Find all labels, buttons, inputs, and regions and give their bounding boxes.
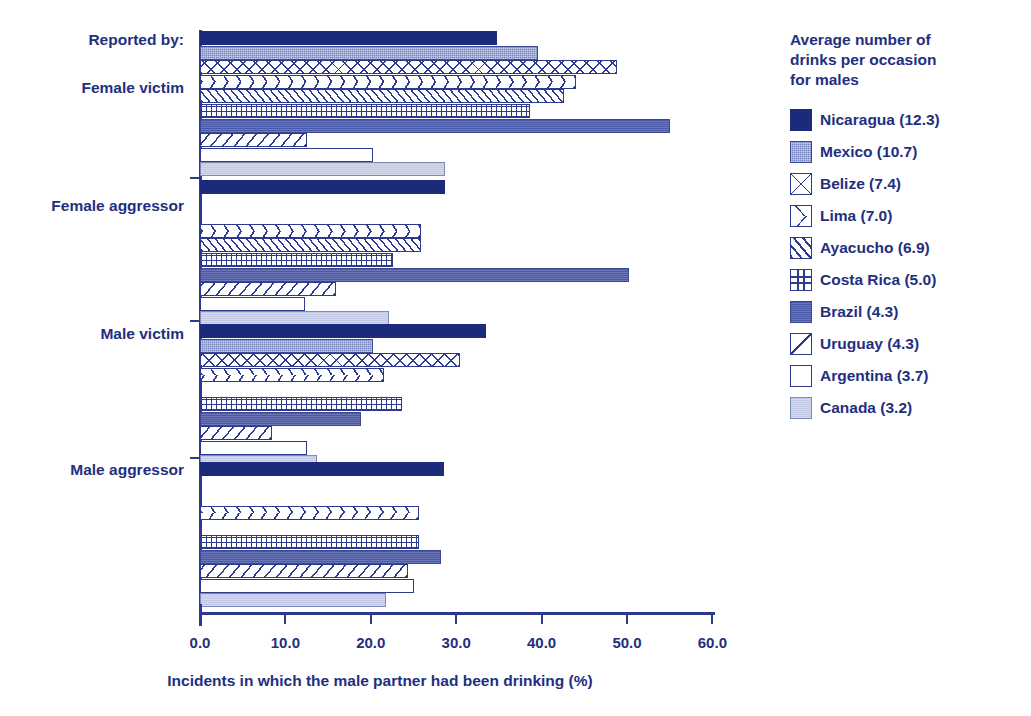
legend-rows: Nicaragua (12.3)Mexico (10.7)Belize (7.4…: [790, 104, 1025, 424]
legend-swatch-icon-diag-right: [790, 333, 812, 355]
legend-title: Average number of drinks per occasion fo…: [790, 30, 1025, 90]
legend-swatch-icon-dots-mid: [790, 141, 812, 163]
bar-lima-male-aggressor: [200, 506, 419, 520]
legend-label: Canada (3.2): [820, 399, 912, 417]
bar-mexico-male-victim: [200, 339, 373, 353]
category-label-male-victim: Male victim: [24, 324, 184, 344]
x-tick-50.0: [626, 613, 628, 624]
bar-belize-female-victim: [200, 60, 617, 74]
chart-plot-area: Reported by: Female victim Female aggres…: [0, 0, 760, 716]
x-tick-label-10.0: 10.0: [255, 634, 315, 651]
x-tick-60.0: [711, 613, 713, 624]
legend-label: Ayacucho (6.9): [820, 239, 930, 257]
category-label-male-aggressor: Male aggressor: [24, 461, 184, 480]
legend-item-argentina: Argentina (3.7): [790, 360, 1025, 392]
legend-item-canada: Canada (3.2): [790, 392, 1025, 424]
legend-item-ayacucho: Ayacucho (6.9): [790, 232, 1025, 264]
bar-costa-male-victim: [200, 397, 402, 411]
bar-mexico-female-victim: [200, 46, 538, 60]
x-tick-20.0: [370, 613, 372, 624]
bar-argentina-female-victim: [200, 148, 373, 162]
bar-nicaragua-male-aggressor: [200, 462, 444, 476]
x-tick-30.0: [455, 613, 457, 624]
legend-label: Costa Rica (5.0): [820, 271, 936, 289]
legend-item-mexico: Mexico (10.7): [790, 136, 1025, 168]
legend-swatch-icon-solid-mid: [790, 301, 812, 323]
x-tick-label-60.0: 60.0: [682, 634, 742, 651]
bar-argentina-female-aggressor: [200, 297, 305, 311]
legend-label: Uruguay (4.3): [820, 335, 919, 353]
group-tick-1: [190, 177, 201, 179]
bar-argentina-male-aggressor: [200, 579, 414, 593]
bar-brazil-female-victim: [200, 119, 670, 133]
legend-label: Argentina (3.7): [820, 367, 929, 385]
bar-canada-female-victim: [200, 162, 445, 176]
legend-label: Brazil (4.3): [820, 303, 898, 321]
bar-lima-male-victim: [200, 368, 384, 382]
bar-lima-female-victim: [200, 75, 576, 89]
legend-swatch-icon-diag-left: [790, 237, 812, 259]
legend-swatch-icon-diamond: [790, 173, 812, 195]
legend-item-costa: Costa Rica (5.0): [790, 264, 1025, 296]
legend-swatch-icon-solid-dark: [790, 109, 812, 131]
legend-item-lima: Lima (7.0): [790, 200, 1025, 232]
x-axis-line: [200, 612, 715, 615]
legend-label: Nicaragua (12.3): [820, 111, 940, 129]
x-tick-10.0: [284, 613, 286, 624]
bar-nicaragua-female-aggressor: [200, 180, 445, 194]
legend-item-uruguay: Uruguay (4.3): [790, 328, 1025, 360]
legend-item-nicaragua: Nicaragua (12.3): [790, 104, 1025, 136]
bar-uruguay-male-aggressor: [200, 564, 408, 578]
x-tick-40.0: [541, 613, 543, 624]
bar-nicaragua-male-victim: [200, 324, 486, 338]
legend-swatch-icon-empty: [790, 365, 812, 387]
legend-swatch-icon-grid: [790, 269, 812, 291]
x-tick-label-30.0: 30.0: [426, 634, 486, 651]
category-label-female-aggressor: Female aggressor: [24, 197, 184, 216]
bar-costa-female-aggressor: [200, 253, 393, 267]
legend-swatch-icon-chevron: [790, 205, 812, 227]
reported-by-label: Reported by:: [24, 30, 184, 50]
x-axis-title: Incidents in which the male partner had …: [0, 672, 760, 690]
bar-argentina-male-victim: [200, 441, 307, 455]
x-tick-0.0: [199, 604, 202, 626]
x-tick-label-50.0: 50.0: [597, 634, 657, 651]
bar-canada-male-aggressor: [200, 593, 386, 607]
bar-costa-male-aggressor: [200, 535, 419, 549]
legend: Average number of drinks per occasion fo…: [790, 30, 1025, 424]
bar-uruguay-male-victim: [200, 426, 272, 440]
x-tick-label-40.0: 40.0: [512, 634, 572, 651]
legend-label: Mexico (10.7): [820, 143, 917, 161]
legend-label: Lima (7.0): [820, 207, 892, 225]
bar-brazil-male-aggressor: [200, 550, 441, 564]
bar-ayacucho-female-aggressor: [200, 238, 421, 252]
x-tick-label-0.0: 0.0: [170, 634, 230, 651]
legend-label: Belize (7.4): [820, 175, 901, 193]
bar-brazil-female-aggressor: [200, 268, 629, 282]
legend-swatch-icon-light: [790, 397, 812, 419]
category-label-female-victim: Female victim: [24, 78, 184, 98]
bar-belize-male-victim: [200, 353, 460, 367]
bar-uruguay-female-victim: [200, 133, 307, 147]
bar-ayacucho-female-victim: [200, 89, 564, 103]
x-tick-label-20.0: 20.0: [341, 634, 401, 651]
bar-uruguay-female-aggressor: [200, 282, 336, 296]
bar-costa-female-victim: [200, 104, 530, 118]
legend-item-brazil: Brazil (4.3): [790, 296, 1025, 328]
bar-brazil-male-victim: [200, 412, 361, 426]
legend-item-belize: Belize (7.4): [790, 168, 1025, 200]
bar-lima-female-aggressor: [200, 224, 421, 238]
bar-nicaragua-female-victim: [200, 31, 497, 45]
